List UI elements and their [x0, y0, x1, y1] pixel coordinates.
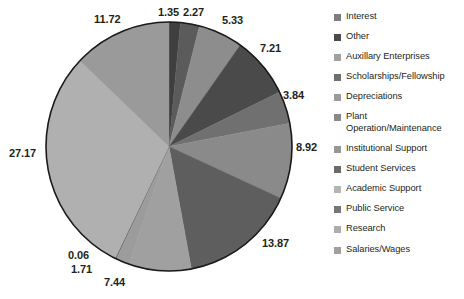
legend-item-label: Research	[346, 223, 385, 235]
legend-item[interactable]: Auxillary Enterprises	[334, 51, 464, 63]
legend-swatch-icon	[334, 166, 341, 173]
legend-item-label: Auxillary Enterprises	[346, 51, 430, 63]
legend-item[interactable]: Scholarships/Fellowship	[334, 71, 464, 83]
pie-data-label: 13.87	[262, 237, 289, 249]
legend-swatch-icon	[334, 114, 341, 121]
pie-data-label: 2.27	[183, 6, 204, 18]
legend-item[interactable]: Other	[334, 31, 464, 43]
legend-item-label: Plant Operation/Maintenance	[346, 111, 464, 134]
legend-item-label: Scholarships/Fellowship	[346, 71, 445, 83]
legend-swatch-icon	[334, 14, 341, 21]
pie-data-label: 7.21	[260, 42, 281, 54]
legend-item[interactable]: Plant Operation/Maintenance	[334, 111, 464, 134]
legend-swatch-icon	[334, 186, 341, 193]
legend-swatch-icon	[334, 94, 341, 101]
legend-swatch-icon	[334, 226, 341, 233]
pie-svg	[45, 21, 293, 272]
legend-item[interactable]: Depreciations	[334, 91, 464, 103]
legend-item[interactable]: Institutional Support	[334, 143, 464, 155]
legend-swatch-icon	[334, 74, 341, 81]
legend-item-label: Academic Support	[346, 183, 421, 195]
legend-item-label: Other	[346, 31, 369, 43]
pie-data-label: 11.72	[94, 13, 120, 25]
legend-swatch-icon	[334, 34, 341, 41]
legend-swatch-icon	[334, 247, 341, 254]
pie-data-label: 0.06	[68, 249, 89, 261]
pie-data-label: 7.44	[104, 276, 125, 288]
pie-data-label: 3.84	[283, 89, 304, 101]
legend-item[interactable]: Public Service	[334, 203, 464, 215]
legend-item-label: Salaries/Wages	[346, 244, 410, 256]
legend-item[interactable]: Salaries/Wages	[334, 244, 464, 256]
legend-item-label: Depreciations	[346, 91, 402, 103]
pie-data-label: 8.92	[296, 141, 317, 153]
chart-legend: InterestOtherAuxillary EnterprisesSchola…	[334, 11, 464, 291]
pie-data-label: 1.71	[71, 263, 92, 275]
pie-data-label: 1.35	[158, 6, 179, 18]
pie-slice-group	[46, 22, 292, 271]
legend-item-label: Public Service	[346, 203, 404, 215]
pie-chart-figure: 1.352.275.337.213.848.9213.877.441.710.0…	[0, 0, 464, 299]
legend-swatch-icon	[334, 206, 341, 213]
legend-item-label: Institutional Support	[346, 143, 427, 155]
legend-swatch-icon	[334, 146, 341, 153]
legend-item-label: Interest	[346, 11, 377, 23]
legend-item[interactable]: Student Services	[334, 163, 464, 175]
pie-data-label: 27.17	[9, 147, 36, 159]
legend-item[interactable]: Academic Support	[334, 183, 464, 195]
legend-item-label: Student Services	[346, 163, 415, 175]
legend-item[interactable]: Research	[334, 223, 464, 235]
legend-swatch-icon	[334, 54, 341, 61]
legend-item[interactable]: Interest	[334, 11, 464, 23]
pie-plot-area: 1.352.275.337.213.848.9213.877.441.710.0…	[0, 0, 320, 299]
pie-data-label: 5.33	[222, 14, 243, 26]
